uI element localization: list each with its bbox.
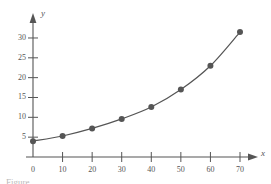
x-axis-label: x [261, 149, 265, 158]
data-curve [33, 32, 240, 141]
y-tick-label: 5 [8, 133, 26, 141]
data-point [60, 133, 66, 139]
data-point [237, 29, 243, 35]
x-tick-label: 40 [141, 166, 161, 174]
x-tick-label: 0 [23, 166, 43, 174]
x-tick-label: 30 [112, 166, 132, 174]
y-axis-label: y [41, 9, 45, 18]
y-axis-arrow-icon [30, 13, 37, 23]
figure-caption: Figure [6, 178, 30, 184]
data-point [89, 125, 95, 131]
x-axis-arrow-icon [248, 154, 258, 161]
y-tick-label: 30 [8, 34, 26, 42]
y-tick-label: 15 [8, 93, 26, 101]
data-point [207, 63, 213, 69]
x-tick-label: 20 [82, 166, 102, 174]
x-tick-label: 50 [171, 166, 191, 174]
data-point [148, 104, 154, 110]
y-tick-label: 25 [8, 54, 26, 62]
x-tick-label: 70 [230, 166, 250, 174]
x-tick-label: 60 [200, 166, 220, 174]
plot-area [0, 0, 271, 184]
figure-container: 51015202530 010203040506070 y x Figure [0, 0, 271, 184]
data-point-markers [30, 29, 243, 144]
y-tick-label: 10 [8, 113, 26, 121]
data-point [178, 87, 184, 93]
data-point [119, 116, 125, 122]
x-tick-label: 10 [53, 166, 73, 174]
data-point [30, 138, 36, 144]
y-tick-label: 20 [8, 74, 26, 82]
